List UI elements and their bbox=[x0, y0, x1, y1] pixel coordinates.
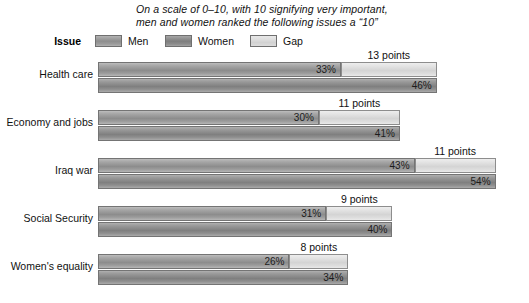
bar-segment-gap bbox=[326, 206, 392, 221]
bar-value-women: 41% bbox=[375, 129, 395, 139]
bar-value-men: 26% bbox=[264, 257, 284, 267]
chart-plot-area: Health care33%46%13 pointsEconomy and jo… bbox=[0, 55, 529, 303]
legend-item-men: Men bbox=[95, 33, 148, 49]
bar-value-men: 30% bbox=[294, 113, 314, 123]
gap-annotation: 9 points bbox=[326, 193, 392, 205]
bar-value-men: 33% bbox=[316, 65, 336, 75]
bar-segment-women: 54% bbox=[98, 174, 496, 189]
legend-label-gap: Gap bbox=[283, 35, 303, 47]
category-label: Social Security bbox=[0, 212, 93, 224]
bar-segment-gap bbox=[319, 110, 400, 125]
bar-value-men: 31% bbox=[301, 209, 321, 219]
bar-segment-women: 34% bbox=[98, 270, 348, 285]
bar-value-women: 46% bbox=[412, 81, 432, 91]
bar-track: 33%46%13 points bbox=[98, 62, 529, 94]
bar-segment-women: 46% bbox=[98, 78, 437, 93]
category-label: Economy and jobs bbox=[0, 116, 93, 128]
bar-track: 31%40%9 points bbox=[98, 206, 529, 238]
bar-group: Social Security31%40%9 points bbox=[0, 199, 529, 245]
legend-label-men: Men bbox=[128, 35, 148, 47]
legend-item-women: Women bbox=[165, 33, 234, 49]
bar-value-women: 34% bbox=[323, 273, 343, 283]
bar-track: 43%54%11 points bbox=[98, 158, 529, 190]
bar-group: Economy and jobs30%41%11 points bbox=[0, 103, 529, 149]
bar-value-women: 40% bbox=[367, 225, 387, 235]
bar-segment-gap bbox=[341, 62, 437, 77]
gap-annotation: 13 points bbox=[341, 49, 437, 61]
category-label: Women's equality bbox=[0, 260, 93, 272]
gap-annotation: 11 points bbox=[415, 145, 496, 157]
bar-track: 30%41%11 points bbox=[98, 110, 529, 142]
bar-segment-men: 33% bbox=[98, 62, 341, 77]
legend-item-gap: Gap bbox=[250, 33, 303, 49]
chart-title: On a scale of 0–10, with 10 signifying v… bbox=[136, 3, 456, 29]
bar-segment-gap bbox=[415, 158, 496, 173]
legend-swatch-gap-icon bbox=[250, 35, 277, 47]
bar-group: Women's equality26%34%8 points bbox=[0, 247, 529, 293]
bar-value-men: 43% bbox=[390, 161, 410, 171]
category-label: Health care bbox=[0, 68, 93, 80]
bar-segment-men: 26% bbox=[98, 254, 289, 269]
gap-annotation: 11 points bbox=[319, 97, 400, 109]
bar-segment-men: 30% bbox=[98, 110, 319, 125]
bar-segment-men: 43% bbox=[98, 158, 415, 173]
bar-group: Health care33%46%13 points bbox=[0, 55, 529, 101]
bar-group: Iraq war43%54%11 points bbox=[0, 151, 529, 197]
bar-segment-women: 40% bbox=[98, 222, 392, 237]
bar-segment-women: 41% bbox=[98, 126, 400, 141]
category-label: Iraq war bbox=[0, 164, 93, 176]
legend-swatch-men-icon bbox=[95, 35, 122, 47]
bar-track: 26%34%8 points bbox=[98, 254, 529, 286]
chart-legend: Issue Men Women Gap bbox=[0, 33, 529, 51]
chart-page: { "title": { "line1": "On a scale of 0–1… bbox=[0, 0, 529, 303]
bar-segment-gap bbox=[289, 254, 348, 269]
chart-title-line-2: men and women ranked the following issue… bbox=[136, 16, 456, 29]
legend-swatch-women-icon bbox=[165, 35, 192, 47]
bar-segment-men: 31% bbox=[98, 206, 326, 221]
bar-value-women: 54% bbox=[471, 177, 491, 187]
issue-column-header: Issue bbox=[0, 35, 81, 47]
legend-label-women: Women bbox=[198, 35, 234, 47]
gap-annotation: 8 points bbox=[289, 241, 348, 253]
chart-title-line-1: On a scale of 0–10, with 10 signifying v… bbox=[136, 3, 456, 16]
